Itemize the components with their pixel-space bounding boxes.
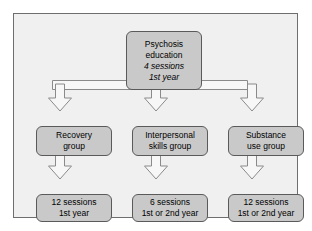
node-recovery-group-sessions[interactable]: 12 sessions 1st year bbox=[36, 194, 112, 222]
node-line: skills group bbox=[149, 141, 192, 152]
node-line: 12 sessions bbox=[52, 197, 97, 208]
node-interpersonal-skills-group-sessions[interactable]: 6 sessions 1st or 2nd year bbox=[132, 194, 208, 222]
node-recovery-group[interactable]: Recovery group bbox=[36, 126, 112, 156]
arrow-root-to-recovery bbox=[48, 84, 71, 111]
node-line: Psychosis bbox=[145, 39, 183, 50]
node-psychosis-education[interactable]: Psychosis education 4 sessions 1st year bbox=[126, 31, 202, 90]
node-line: 6 sessions bbox=[150, 197, 190, 208]
node-substance-use-group[interactable]: Substance use group bbox=[228, 126, 304, 156]
node-line: 4 sessions bbox=[144, 61, 184, 72]
node-line: group bbox=[63, 141, 85, 152]
arrow-root-to-substance bbox=[240, 84, 263, 111]
node-line: education bbox=[146, 50, 183, 61]
node-line: 1st year bbox=[149, 72, 179, 83]
node-line: 1st year bbox=[59, 208, 89, 219]
node-line: Interpersonal bbox=[145, 130, 195, 141]
node-line: 1st or 2nd year bbox=[238, 208, 295, 219]
flowchart-figure: Psychosis education 4 sessions 1st year … bbox=[0, 0, 312, 231]
node-line: 1st or 2nd year bbox=[142, 208, 199, 219]
flowchart-panel: Psychosis education 4 sessions 1st year … bbox=[13, 13, 298, 218]
node-line: Recovery bbox=[56, 130, 92, 141]
node-line: use group bbox=[247, 141, 285, 152]
node-interpersonal-skills-group[interactable]: Interpersonal skills group bbox=[132, 126, 208, 156]
node-substance-use-group-sessions[interactable]: 12 sessions 1st or 2nd year bbox=[228, 194, 304, 222]
node-line: Substance bbox=[246, 130, 286, 141]
node-line: 12 sessions bbox=[244, 197, 289, 208]
